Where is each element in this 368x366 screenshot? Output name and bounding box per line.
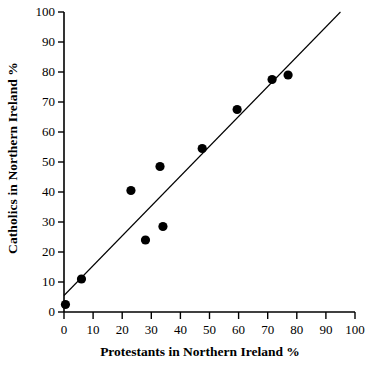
data-point-marker — [155, 162, 164, 171]
x-tick-label: 40 — [165, 323, 195, 336]
y-tick-label: 20 — [25, 245, 55, 258]
x-tick-label: 10 — [78, 323, 108, 336]
data-point-marker — [61, 300, 70, 309]
y-tick-label: 80 — [25, 65, 55, 78]
y-tick-label: 10 — [25, 275, 55, 288]
x-axis-ticks — [64, 312, 355, 319]
trendline-segment — [64, 12, 340, 296]
x-tick-label: 20 — [107, 323, 137, 336]
x-tick-label: 30 — [136, 323, 166, 336]
scatter-plot-figure: Catholics in Northern Ireland % Protesta… — [0, 0, 368, 366]
data-point-marker — [77, 274, 86, 283]
x-tick-label: 80 — [282, 323, 312, 336]
data-point-marker — [198, 144, 207, 153]
x-tick-label: 90 — [311, 323, 341, 336]
axes — [64, 12, 355, 312]
x-tick-label: 60 — [224, 323, 254, 336]
data-point-marker — [126, 186, 135, 195]
plot-canvas — [0, 0, 368, 366]
x-tick-label: 70 — [253, 323, 283, 336]
data-point-marker — [141, 235, 150, 244]
trendline — [64, 12, 340, 296]
data-point-marker — [233, 105, 242, 114]
y-tick-label: 70 — [25, 95, 55, 108]
x-tick-label: 100 — [340, 323, 368, 336]
x-tick-label: 50 — [195, 323, 225, 336]
y-tick-label: 60 — [25, 125, 55, 138]
x-tick-label: 0 — [49, 323, 79, 336]
y-tick-label: 90 — [25, 35, 55, 48]
data-point-marker — [283, 70, 292, 79]
y-tick-label: 0 — [25, 305, 55, 318]
data-point-marker — [158, 222, 167, 231]
y-axis-ticks — [58, 12, 64, 312]
y-tick-label: 50 — [25, 155, 55, 168]
y-tick-label: 40 — [25, 185, 55, 198]
y-tick-label: 100 — [25, 5, 55, 18]
data-points — [61, 70, 293, 309]
y-tick-label: 30 — [25, 215, 55, 228]
data-point-marker — [267, 75, 276, 84]
